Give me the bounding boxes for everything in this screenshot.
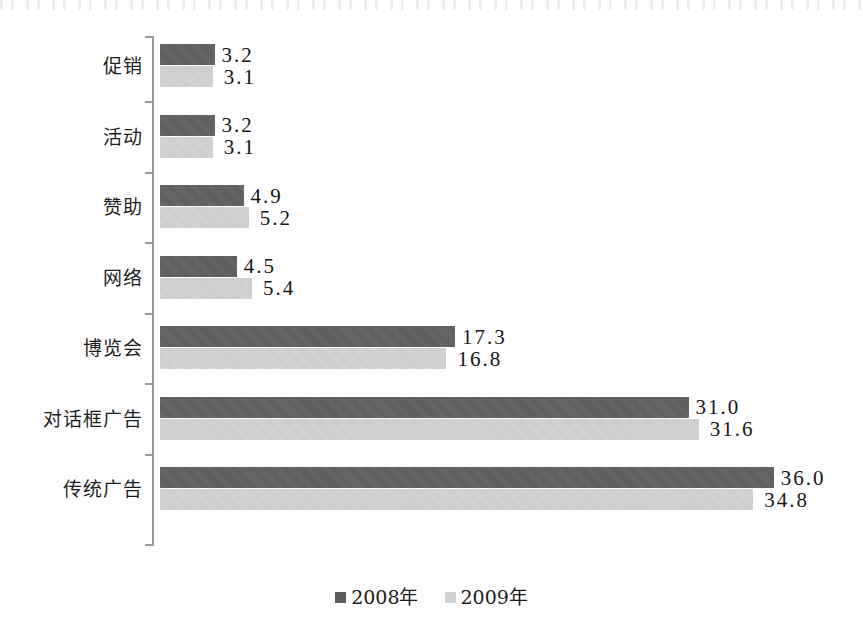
bar-value-label: 4.5: [244, 256, 276, 277]
axis-tick: [145, 101, 152, 103]
legend-swatch-icon: [335, 592, 346, 603]
bar-value-label: 36.0: [781, 467, 826, 488]
category-label: 网络: [103, 268, 143, 287]
bar-2008: [160, 115, 215, 136]
bar-group: 促销3.23.1: [152, 43, 852, 89]
category-label: 活动: [103, 127, 143, 146]
bar-2008: [160, 326, 455, 347]
axis-tick: [145, 242, 152, 244]
axis-tick: [145, 383, 152, 385]
bar-value-label: 17.3: [462, 326, 507, 347]
bar-2009: [160, 419, 699, 440]
bar-value-label: 3.2: [222, 44, 254, 65]
legend-item: 2008年: [335, 588, 418, 607]
bar-2009: [160, 278, 252, 299]
bar-2008: [160, 256, 237, 277]
bar-value-label: 16.8: [457, 348, 502, 369]
bar-2009: [160, 66, 213, 87]
legend-label: 2008年: [351, 588, 418, 607]
bar-value-label: 3.1: [224, 137, 256, 158]
category-label: 博览会: [83, 339, 143, 358]
bar-2008: [160, 44, 215, 65]
bar-group: 活动3.23.1: [152, 114, 852, 160]
bar-2009: [160, 137, 213, 158]
bar-value-label: 3.2: [222, 115, 254, 136]
bar-2008: [160, 185, 244, 206]
bar-value-label: 4.9: [251, 185, 283, 206]
category-label: 对话框广告: [43, 409, 143, 428]
bar-2009: [160, 348, 446, 369]
bar-value-label: 31.0: [696, 397, 741, 418]
bar-group: 博览会17.316.8: [152, 325, 852, 371]
grouped-bar-chart: 促销3.23.1活动3.23.1赞助4.95.2网络4.55.4博览会17.31…: [0, 0, 863, 637]
bar-2009: [160, 207, 249, 228]
chart-legend: 2008年2009年: [0, 588, 863, 607]
bar-group: 对话框广告31.031.6: [152, 396, 852, 442]
bar-group: 传统广告36.034.8: [152, 466, 852, 512]
axis-tick: [145, 172, 152, 174]
bar-2009: [160, 489, 753, 510]
category-label: 促销: [103, 57, 143, 76]
bar-value-label: 5.2: [260, 207, 292, 228]
legend-swatch-icon: [445, 592, 456, 603]
bar-value-label: 5.4: [263, 278, 295, 299]
axis-tick: [145, 313, 152, 315]
bar-value-label: 31.6: [710, 419, 755, 440]
category-label: 传统广告: [63, 480, 143, 499]
bar-value-label: 3.1: [224, 66, 256, 87]
bar-group: 网络4.55.4: [152, 255, 852, 301]
plot-area: 促销3.23.1活动3.23.1赞助4.95.2网络4.55.4博览会17.31…: [152, 36, 852, 574]
legend-item: 2009年: [445, 588, 528, 607]
legend-label: 2009年: [461, 588, 528, 607]
axis-tick: [145, 454, 152, 456]
bar-value-label: 34.8: [764, 489, 809, 510]
category-label: 赞助: [103, 198, 143, 217]
bar-group: 赞助4.95.2: [152, 184, 852, 230]
bar-2008: [160, 467, 774, 488]
bar-2008: [160, 397, 689, 418]
